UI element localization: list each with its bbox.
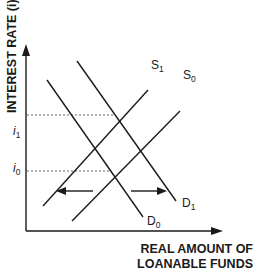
label-s0: S0: [183, 68, 196, 84]
y-axis-title: INTEREST RATE (i): [5, 0, 19, 113]
left-arrowhead-icon: [56, 187, 66, 195]
x-axis-arrow-icon: [211, 227, 223, 235]
y-axis-arrow-icon: [22, 44, 30, 56]
x-axis-title-line1: REAL AMOUNT OF: [141, 242, 254, 256]
supply-curve-s0: [72, 111, 180, 221]
label-s1: S1: [151, 58, 164, 74]
loanable-funds-diagram: INTEREST RATE (i) i1 i0 S1 S0 D1 D0 REAL…: [0, 0, 257, 272]
supply-curve-s1: [43, 90, 148, 206]
label-d1: D1: [182, 196, 196, 212]
label-d0: D0: [147, 214, 161, 230]
right-arrowhead-icon: [157, 187, 167, 195]
x-axis-title-line2: LOANABLE FUNDS: [137, 257, 253, 271]
tick-label-i0: i0: [13, 161, 21, 177]
tick-label-i1: i1: [13, 124, 21, 140]
